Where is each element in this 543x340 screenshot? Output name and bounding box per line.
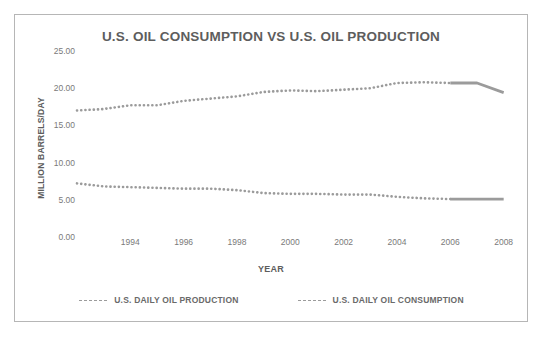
data-series-line: [77, 183, 450, 199]
y-axis-tick-label: 25.00: [29, 46, 75, 56]
x-axis-tick-label: 2000: [260, 237, 320, 247]
chart-legend: U.S. DAILY OIL PRODUCTIONU.S. DAILY OIL …: [15, 295, 527, 305]
legend-label: U.S. DAILY OIL PRODUCTION: [114, 295, 238, 305]
y-axis-ticks: 0.005.0010.0015.0020.0025.00: [29, 15, 75, 321]
series-plot: [77, 51, 517, 237]
x-axis-tick-label: 2008: [474, 237, 528, 247]
legend-item[interactable]: U.S. DAILY OIL CONSUMPTION: [297, 295, 464, 305]
y-axis-tick-label: 10.00: [29, 158, 75, 168]
x-axis-tick-label: 2006: [420, 237, 480, 247]
x-axis-title: YEAR: [15, 264, 527, 274]
legend-color-swatch: [297, 299, 327, 302]
y-axis-tick-label: 15.00: [29, 120, 75, 130]
chart-title: U.S. OIL CONSUMPTION VS U.S. OIL PRODUCT…: [15, 29, 527, 44]
x-axis-tick-label: 1998: [207, 237, 267, 247]
plot-area: [77, 51, 517, 237]
x-axis-tick-label: 2002: [314, 237, 374, 247]
y-axis-tick-label: 20.00: [29, 83, 75, 93]
legend-item[interactable]: U.S. DAILY OIL PRODUCTION: [78, 295, 238, 305]
x-axis-ticks: 19941996199820002002200420062008: [15, 237, 527, 253]
y-axis-tick-label: 5.00: [29, 195, 75, 205]
x-axis-tick-label: 1996: [154, 237, 214, 247]
x-axis-tick-label: 1994: [100, 237, 160, 247]
x-axis-tick-label: 2004: [367, 237, 427, 247]
data-series-line: [450, 83, 503, 93]
data-series-line: [77, 82, 450, 110]
chart-container: U.S. OIL CONSUMPTION VS U.S. OIL PRODUCT…: [14, 14, 528, 322]
legend-label: U.S. DAILY OIL CONSUMPTION: [333, 295, 464, 305]
legend-color-swatch: [78, 299, 108, 302]
